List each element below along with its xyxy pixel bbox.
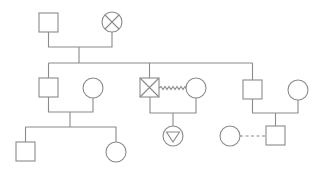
son2-partner-circle — [186, 78, 206, 98]
grandson3-male-square — [266, 126, 285, 145]
zigzag-relationship-line — [159, 87, 189, 90]
grandmother-deceased-circle — [102, 12, 122, 32]
granddaughter1-circle — [106, 142, 126, 162]
son1-spouse-circle — [83, 78, 103, 98]
son3-male-square — [243, 80, 262, 99]
grandfather-male-square — [39, 13, 58, 32]
grandparents-marriage-line — [49, 32, 113, 63]
son1-male-square — [39, 78, 58, 97]
grandson3-partner-circle — [220, 126, 240, 146]
family3-marriage-line — [253, 99, 299, 126]
genogram-diagram — [0, 0, 322, 175]
grandchild-unknown-circle — [163, 126, 183, 146]
grandson1-male-square — [16, 142, 35, 161]
family1-marriage-line — [26, 97, 117, 142]
son3-spouse-circle — [288, 80, 308, 100]
sibling-line — [49, 63, 253, 80]
son2-deceased-square — [140, 78, 159, 97]
